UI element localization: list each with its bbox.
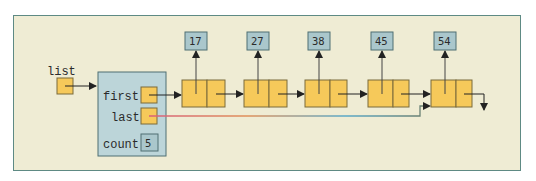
linked-list-diagram: list first last count 5 17 27 38 [0,0,536,181]
node-value: 27 [251,35,264,47]
node-value: 54 [438,35,451,47]
list-node: 27 [244,32,304,107]
count-value: 5 [145,137,151,149]
list-node: 45 [368,32,430,107]
list-node: 38 [305,32,367,107]
node-value: 38 [312,35,325,47]
node-value: 17 [189,35,202,47]
header-count-label: count [103,138,139,152]
last-arrowhead [423,102,431,110]
header-first-label: first [103,90,139,104]
list-node: 54 [431,32,484,110]
node-value: 45 [375,35,388,47]
header-last-label: last [111,111,140,125]
list-variable-label: list [47,65,76,79]
list-node: 17 [182,32,243,107]
